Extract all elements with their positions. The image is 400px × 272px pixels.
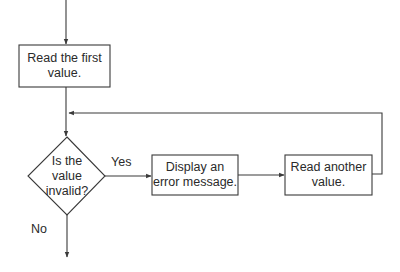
read-first-value-label: Read the first value. (19, 45, 110, 87)
display-error-label: Display an error message. (152, 155, 238, 195)
read-another-value-label: Read another value. (285, 155, 372, 195)
flowchart-canvas (0, 0, 400, 272)
is-value-invalid-label: Is the value invalid? (28, 137, 106, 215)
no-label: No (31, 222, 47, 236)
yes-label: Yes (111, 155, 131, 169)
